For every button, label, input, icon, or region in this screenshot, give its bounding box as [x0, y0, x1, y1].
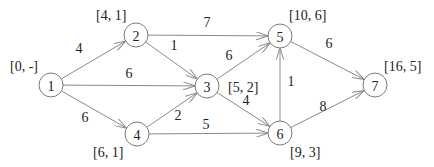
node-label: 7: [372, 79, 379, 94]
node-7: 7: [363, 73, 387, 97]
node-tag-7: [16, 5]: [384, 59, 421, 74]
node-label: 4: [134, 128, 141, 143]
edge-2-5: [148, 35, 268, 36]
node-5: 5: [268, 24, 292, 48]
node-3: 3: [195, 74, 219, 98]
node-2: 2: [124, 23, 148, 47]
edge-weight-4-3: 2: [175, 108, 182, 123]
edge-weight-1-2: 4: [76, 41, 83, 56]
edge-weight-6-5: 1: [288, 74, 295, 89]
node-label: 5: [277, 30, 284, 45]
edge-4-6: [149, 133, 268, 134]
edge-1-4: [61, 91, 126, 128]
edge-4-3: [147, 93, 197, 127]
edge-weight-1-3: 6: [126, 66, 133, 81]
edge-weight-3-5: 6: [226, 48, 233, 63]
edge-weight-3-6: 4: [243, 93, 250, 108]
graph-canvas: 466712564168 1234567 [0, -][4, 1][5, 2][…: [0, 0, 434, 167]
node-tag-2: [4, 1]: [96, 8, 126, 23]
nodes-layer: 1234567: [39, 23, 387, 146]
graph-diagram: 466712564168 1234567 [0, -][4, 1][5, 2][…: [0, 0, 434, 167]
edge-6-7: [291, 90, 365, 127]
node-label: 3: [204, 80, 211, 95]
edge-weights-layer: 466712564168: [76, 15, 333, 132]
edge-weight-2-5: 7: [204, 15, 211, 30]
edge-weight-6-7: 8: [320, 99, 327, 114]
edge-weight-1-4: 6: [82, 110, 89, 125]
node-tag-6: [9, 3]: [290, 145, 320, 160]
node-4: 4: [125, 122, 149, 146]
node-6: 6: [268, 121, 292, 145]
edge-1-3: [63, 85, 195, 86]
node-1: 1: [39, 73, 63, 97]
node-label: 1: [48, 79, 55, 94]
edge-1-2: [61, 41, 125, 79]
edge-weight-2-3: 1: [171, 38, 178, 53]
edge-weight-4-6: 5: [203, 117, 210, 132]
node-tag-3: [5, 2]: [228, 80, 258, 95]
node-tag-5: [10, 6]: [289, 8, 326, 23]
node-label: 2: [133, 29, 140, 44]
node-tag-4: [6, 1]: [93, 145, 123, 160]
edge-weight-5-7: 6: [326, 36, 333, 51]
node-tag-1: [0, -]: [10, 59, 38, 74]
node-label: 6: [277, 127, 284, 142]
